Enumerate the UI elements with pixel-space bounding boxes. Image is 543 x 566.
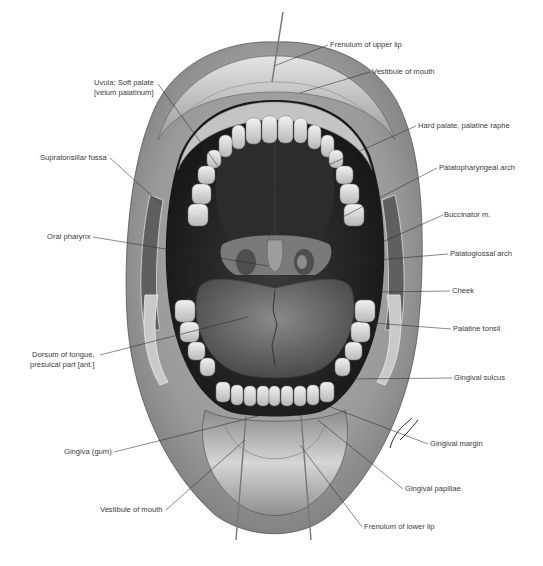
label-gingival-margin: Gingival margin (430, 439, 483, 449)
label-cheek: Cheek (452, 286, 474, 296)
soft-palate (221, 235, 332, 275)
label-gingiva-gum: Gingiva (gum) (64, 447, 112, 457)
label-buccinator: Buccinator m. (444, 210, 490, 220)
label-uvula-soft-palate: Uvula; Soft palate [velum palatinum] (94, 78, 154, 98)
label-dorsum-of-tongue: Dorsum of tongue, presulcal part [ant.] (30, 350, 95, 370)
label-palatine-tonsil: Palatine tonsil (453, 324, 500, 334)
oral-cavity-illustration (0, 0, 543, 566)
label-vestibule-of-mouth-bottom: Vestibule of mouth (100, 505, 162, 515)
label-frenulum-lower-lip: Frenulum of lower lip (364, 522, 434, 532)
label-uvula-line-1: Uvula; Soft palate (94, 78, 154, 88)
label-oral-pharynx: Oral pharynx (47, 232, 90, 242)
left-tonsil-recess (236, 249, 256, 275)
label-hard-palate-raphe: Hard palate, palatine raphe (418, 121, 510, 131)
label-gingival-papillae: Gingival papillae (405, 484, 461, 494)
label-uvula-line-2: [velum palatinum] (94, 88, 154, 98)
label-gingival-sulcus: Gingival sulcus (454, 373, 505, 383)
palatine-tonsil (297, 255, 307, 269)
label-dorsum-line-2: presulcal part [ant.] (30, 360, 95, 370)
label-dorsum-line-1: Dorsum of tongue, (30, 350, 95, 360)
label-supratonsillar-fossa: Supratonsillar fossa (40, 153, 107, 163)
label-frenulum-upper-lip: Frenulum of upper lip (330, 40, 402, 50)
label-palatopharyngeal-arch: Palatopharyngeal arch (439, 163, 515, 173)
label-palatoglossal-arch: Palatoglossal arch (450, 249, 512, 259)
label-vestibule-of-mouth-top: Vestibule of mouth (372, 67, 434, 77)
